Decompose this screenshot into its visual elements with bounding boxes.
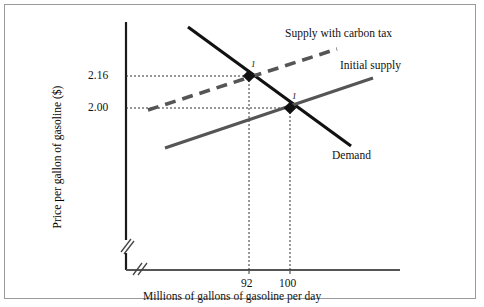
y-tick-label-low: 2.00 [88, 102, 108, 114]
initial-supply-label: Initial supply [340, 60, 401, 72]
y-axis-title-wrapper: Price per gallon of gasoline ($) [47, 57, 65, 257]
y-tick-label-high: 2.16 [88, 70, 108, 82]
chart-plot-area [0, 0, 484, 307]
figure-container: 2.16 2.00 92 100 Price per gallon of gas… [0, 0, 484, 307]
equilibrium-label-100: 1 [292, 92, 297, 101]
x-tick-label-92: 92 [241, 278, 253, 290]
x-tick-label-100: 100 [279, 278, 296, 290]
demand-curve [188, 27, 351, 146]
x-axis-title: Millions of gallons of gasoline per day [143, 291, 321, 303]
equilibrium-label-92: 1 [251, 60, 256, 69]
y-axis-title: Price per gallon of gasoline ($) [51, 86, 63, 229]
supply-with-carbon-tax-label: Supply with carbon tax [285, 28, 392, 40]
y-axis-break-mark [121, 239, 134, 254]
demand-label: Demand [332, 150, 371, 162]
